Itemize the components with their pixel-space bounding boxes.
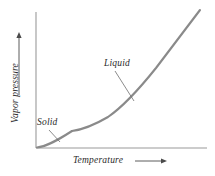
x-axis-label-text: Temperature (73, 155, 123, 165)
solid-sublimation-curve (37, 131, 72, 148)
y-axis-label: Vapor pressure (8, 50, 22, 136)
right-arrow-icon (161, 159, 167, 164)
liquid-vaporization-curve (72, 10, 200, 131)
liquid-region-label: Liquid (104, 58, 130, 68)
y-axis-label-text: Vapor pressure (10, 63, 20, 123)
liquid-leader-line (115, 71, 134, 101)
phase-diagram-figure: Vapor pressure Temperature Liquid Solid (0, 0, 215, 176)
plot-area (0, 0, 215, 176)
up-arrow-icon (16, 32, 21, 38)
solid-region-label: Solid (37, 117, 58, 127)
